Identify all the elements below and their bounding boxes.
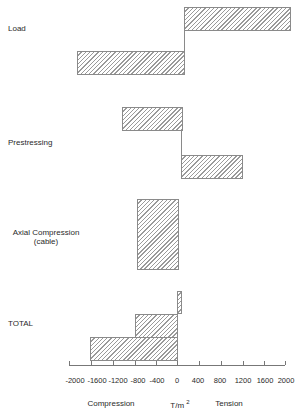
tick	[243, 361, 244, 365]
label-axial-line2: (cable)	[8, 237, 84, 246]
load-tension-bar	[184, 7, 291, 31]
axis-label-tension: Tension	[215, 399, 243, 408]
tick	[177, 361, 178, 365]
label-axial-compression: Axial Compression (cable)	[8, 228, 84, 246]
prestressing-compression-bar	[122, 107, 183, 131]
load-zero-line	[184, 31, 185, 51]
tick	[221, 361, 222, 365]
tick-label: 1600	[257, 376, 274, 385]
tick	[156, 361, 157, 365]
tick-label: 1200	[235, 376, 252, 385]
tick	[91, 361, 92, 365]
tick-label: 0	[175, 376, 179, 385]
axis-label-compression: Compression	[87, 399, 134, 408]
tick-label: 800	[214, 376, 227, 385]
tick	[69, 361, 70, 365]
tick-label: -1200	[108, 376, 127, 385]
prestressing-tension-bar	[181, 155, 243, 179]
unit-text: T/m	[170, 401, 184, 410]
tick	[285, 361, 286, 365]
label-prestressing: Prestressing	[8, 138, 52, 147]
axis-label-unit: T/m 2	[170, 399, 189, 410]
x-axis-line	[69, 365, 285, 366]
prestressing-zero-line	[181, 131, 182, 155]
tick-label: -2000	[65, 376, 84, 385]
load-compression-bar	[77, 51, 185, 75]
label-total: TOTAL	[8, 319, 33, 328]
label-axial-line1: Axial Compression	[8, 228, 84, 237]
total-compression-bar	[90, 337, 178, 361]
tick	[113, 361, 114, 365]
tick	[135, 361, 136, 365]
tick-label: 400	[192, 376, 205, 385]
tick	[264, 361, 265, 365]
total-tension-bar	[177, 291, 182, 314]
tick-label: -400	[149, 376, 164, 385]
tick-label: -1600	[87, 376, 106, 385]
tick-label: -800	[130, 376, 145, 385]
total-middle-bar	[135, 314, 178, 338]
axial-compression-bar	[137, 199, 179, 270]
label-load: Load	[8, 24, 26, 33]
tick-label: 2000	[278, 376, 295, 385]
tick	[199, 361, 200, 365]
unit-superscript: 2	[186, 399, 189, 405]
